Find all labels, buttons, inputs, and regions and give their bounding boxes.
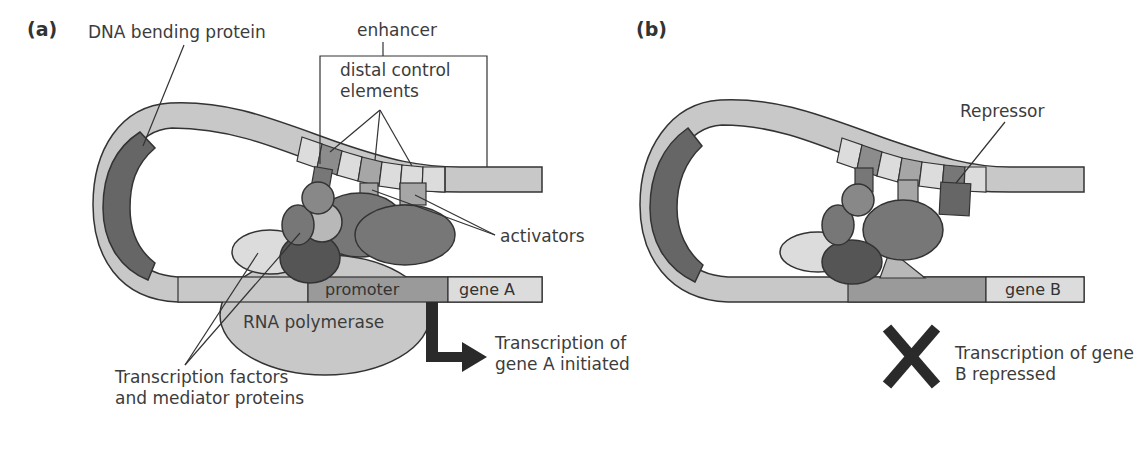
- distal-control-elements-label: distal control elements: [340, 60, 490, 102]
- panel-a-label: (a): [27, 18, 57, 40]
- bent-arrow-icon: [426, 302, 487, 372]
- repressor-protein: [939, 182, 971, 216]
- panel-b-label: (b): [636, 18, 667, 40]
- activators-label: activators: [500, 226, 585, 247]
- outcome-a-label: Transcription of gene A initiated: [495, 333, 665, 375]
- repressor-label: Repressor: [960, 101, 1044, 122]
- enhancer-label: enhancer: [357, 20, 437, 41]
- gene-b-label: gene B: [1005, 280, 1061, 299]
- transcription-factors-label: Transcription factors and mediator prote…: [115, 367, 325, 409]
- dna-bending-protein-label: DNA bending protein: [88, 22, 266, 43]
- x-mark-icon: [887, 328, 936, 385]
- promoter-label: promoter: [325, 280, 399, 299]
- rna-polymerase-label: RNA polymerase: [243, 312, 384, 333]
- outcome-b-label: Transcription of gene B repressed: [955, 343, 1135, 385]
- gene-a-label: gene A: [459, 280, 515, 299]
